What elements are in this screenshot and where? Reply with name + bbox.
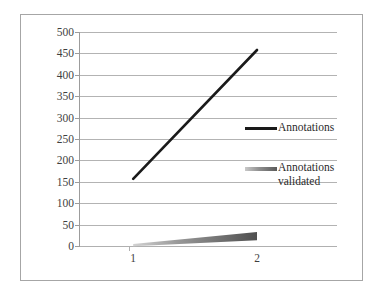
legend-item-annotations-validated[interactable]: Annotations validated xyxy=(245,160,334,188)
legend-label: Annotations validated xyxy=(278,160,334,188)
x-axis-center-tick xyxy=(129,246,130,251)
series-plot xyxy=(79,32,337,246)
y-axis-tick-label: 0 xyxy=(68,240,74,252)
x-axis-tick-labels: 12 xyxy=(79,252,337,270)
x-axis-tick-label: 1 xyxy=(130,252,136,264)
legend-item-annotations[interactable]: Annotations xyxy=(245,120,334,135)
series-line-annotations-validated xyxy=(133,232,257,246)
y-axis-tick-label: 400 xyxy=(57,69,74,81)
y-axis-tick-labels: 050100150200250300350400450500 xyxy=(20,0,74,293)
y-axis-tick-label: 250 xyxy=(57,133,74,145)
y-axis-tick-label: 450 xyxy=(57,47,74,59)
series-line-annotations xyxy=(133,50,257,179)
y-axis-tick xyxy=(75,246,79,247)
y-axis-tick-label: 300 xyxy=(57,112,74,124)
legend-line-swatch-icon xyxy=(245,123,277,135)
legend-line-swatch-icon xyxy=(245,163,277,175)
y-axis-tick-label: 50 xyxy=(63,219,75,231)
y-axis-tick-label: 150 xyxy=(57,176,74,188)
gridline xyxy=(79,246,337,247)
legend-label: Annotations xyxy=(278,120,334,134)
x-axis-tick-label: 2 xyxy=(254,252,260,264)
y-axis-tick-label: 200 xyxy=(57,154,74,166)
y-axis-tick-label: 350 xyxy=(57,90,74,102)
chart-container: 050100150200250300350400450500 12 Annota… xyxy=(0,0,387,293)
y-axis-tick-label: 100 xyxy=(57,197,74,209)
y-axis-tick-label: 500 xyxy=(57,26,74,38)
